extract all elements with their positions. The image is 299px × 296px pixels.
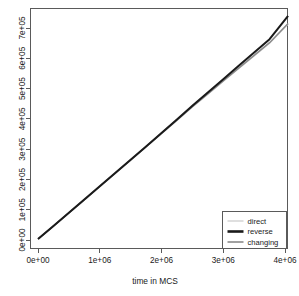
legend-label-reverse: reverse (248, 227, 273, 236)
x-tick-label: 2e+06 (150, 256, 173, 265)
line-chart: 0e+001e+062e+063e+064e+06 0e+001e+052e+0… (0, 0, 299, 296)
x-axis-ticks (38, 249, 285, 254)
chart-screenshot: 0e+001e+062e+063e+064e+06 0e+001e+052e+0… (0, 0, 299, 296)
y-tick-label: 0e+00 (18, 228, 27, 251)
y-tick-label: 5e+05 (18, 77, 27, 100)
y-tick-label: 7e+05 (18, 16, 27, 39)
x-axis-title: time in MCS (132, 276, 178, 286)
x-tick-labels: 0e+001e+062e+063e+064e+06 (27, 256, 297, 265)
legend-label-direct: direct (248, 217, 267, 226)
y-tick-label: 6e+05 (18, 46, 27, 69)
x-tick-label: 1e+06 (88, 256, 111, 265)
legend-label-changing: changing (248, 238, 279, 247)
x-tick-label: 4e+06 (274, 256, 297, 265)
y-tick-labels: 0e+001e+052e+053e+054e+055e+056e+057e+05 (18, 16, 27, 251)
x-tick-label: 3e+06 (212, 256, 235, 265)
chart-legend: directreversechanging (223, 212, 287, 249)
y-tick-label: 3e+05 (18, 137, 27, 160)
y-tick-label: 2e+05 (18, 167, 27, 190)
x-tick-label: 0e+00 (27, 256, 50, 265)
data-series-group (38, 16, 288, 239)
y-tick-label: 1e+05 (18, 198, 27, 221)
y-tick-label: 4e+05 (18, 107, 27, 130)
series-line-reverse (38, 16, 288, 239)
